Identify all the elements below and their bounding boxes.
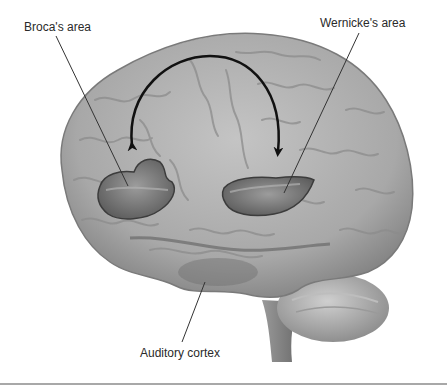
cerebrum bbox=[61, 33, 413, 297]
brain-illustration bbox=[0, 0, 447, 388]
auditory-cortex-label: Auditory cortex bbox=[140, 346, 220, 360]
wernicke-area-label: Wernicke's area bbox=[320, 16, 405, 30]
bottom-divider bbox=[0, 383, 447, 385]
brain-diagram: Broca's area Wernicke's area Auditory co… bbox=[0, 0, 447, 388]
broca-area-label: Broca's area bbox=[24, 20, 91, 34]
